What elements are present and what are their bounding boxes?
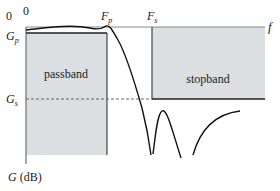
origin-y-label: 0 <box>23 4 29 18</box>
fs-label: Fs <box>146 9 157 25</box>
stopband-ripple-lobe-2 <box>193 111 240 155</box>
g-axis-label: G (dB) <box>8 170 42 184</box>
passband-label: passband <box>44 67 88 81</box>
origin-x-label: 0 <box>6 9 12 23</box>
stopband-region <box>152 27 265 99</box>
fp-label: Fp <box>100 9 112 25</box>
passband-region <box>26 33 107 155</box>
stopband-label: stopband <box>186 72 229 86</box>
filter-spec-diagram: 0 0 Fp Fs f Gp Gs passband stopband G (d… <box>0 0 280 191</box>
stopband-ripple-lobe-1 <box>153 111 181 158</box>
gs-label: Gs <box>6 92 18 108</box>
gp-label: Gp <box>6 29 19 45</box>
f-axis-label: f <box>268 19 274 34</box>
